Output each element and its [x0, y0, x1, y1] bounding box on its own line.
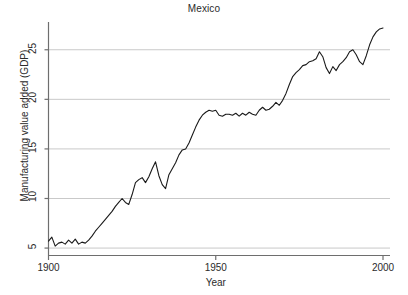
y-tick-label: 5 [26, 236, 37, 258]
x-tick-marks [49, 256, 384, 260]
data-series-line [49, 28, 384, 246]
chart-container: Mexico Manufacturing value added (GDP) 5… [0, 0, 408, 295]
gridlines [49, 50, 391, 248]
y-tick-label: 15 [26, 136, 37, 158]
x-tick-label: 2000 [361, 262, 405, 273]
x-tick-label: 1900 [27, 262, 71, 273]
x-axis-title: Year [194, 277, 238, 288]
x-tick-label: 1950 [194, 262, 238, 273]
y-tick-label: 20 [26, 87, 37, 109]
plot-area [0, 0, 408, 295]
y-tick-label: 10 [26, 186, 37, 208]
axis-spines [48, 22, 390, 256]
y-tick-label: 25 [26, 37, 37, 59]
